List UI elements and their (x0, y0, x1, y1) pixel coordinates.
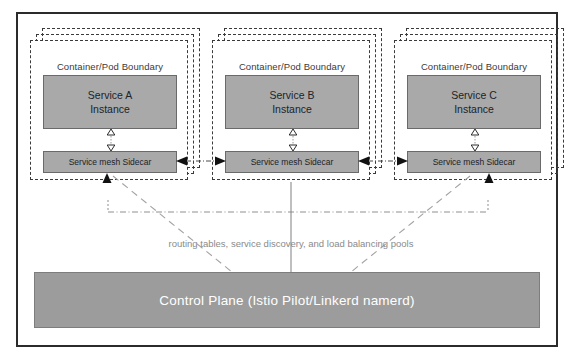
pod-boundary-inner-b: Container/Pod Boundary Service B Instanc… (212, 40, 370, 180)
pod-boundary-label-a: Container/Pod Boundary (31, 61, 189, 72)
sidecar-label-b: Service mesh Sidecar (251, 157, 334, 167)
sidecar-box-b[interactable]: Service mesh Sidecar (225, 151, 359, 173)
pod-boundary-label-b: Container/Pod Boundary (213, 61, 371, 72)
mesh-caption: routing tables, service discovery, and l… (0, 238, 582, 249)
service-kind-c: Instance (454, 102, 494, 116)
pod-boundary-inner-c: Container/Pod Boundary Service C Instanc… (394, 40, 552, 180)
service-sidecar-connector-c (468, 129, 482, 151)
control-plane-label: Control Plane (Istio Pilot/Linkerd namer… (159, 293, 414, 308)
pod-group-a[interactable]: Container/Pod Boundary Service A Instanc… (30, 28, 202, 180)
service-kind-a: Instance (90, 102, 130, 116)
service-name-a: Service A (88, 88, 132, 102)
pod-group-c[interactable]: Container/Pod Boundary Service C Instanc… (394, 28, 566, 180)
service-name-c: Service C (451, 88, 497, 102)
sidecar-label-c: Service mesh Sidecar (433, 157, 516, 167)
sidecar-box-c[interactable]: Service mesh Sidecar (407, 151, 541, 173)
pod-group-b[interactable]: Container/Pod Boundary Service B Instanc… (212, 28, 384, 180)
service-kind-b: Instance (272, 102, 312, 116)
service-instance-box-a[interactable]: Service A Instance (43, 75, 177, 129)
diagram-canvas: Container/Pod Boundary Service A Instanc… (0, 0, 582, 362)
service-name-b: Service B (270, 88, 315, 102)
sidecar-box-a[interactable]: Service mesh Sidecar (43, 151, 177, 173)
pod-boundary-inner-a: Container/Pod Boundary Service A Instanc… (30, 40, 188, 180)
control-plane-box[interactable]: Control Plane (Istio Pilot/Linkerd namer… (34, 272, 540, 328)
service-instance-box-b[interactable]: Service B Instance (225, 75, 359, 129)
pod-boundary-label-c: Container/Pod Boundary (395, 61, 553, 72)
sidecar-label-a: Service mesh Sidecar (69, 157, 152, 167)
service-sidecar-connector-a (104, 129, 118, 151)
service-instance-box-c[interactable]: Service C Instance (407, 75, 541, 129)
service-sidecar-connector-b (286, 129, 300, 151)
